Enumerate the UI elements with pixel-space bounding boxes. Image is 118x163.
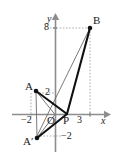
tick-marks: [53, 28, 90, 117]
y-tick-label-8: 8: [44, 22, 49, 32]
origin-label: O: [47, 115, 55, 126]
point-label-p: P: [63, 115, 69, 126]
point-a-dot: [34, 89, 39, 94]
x-axis-label: x: [101, 116, 105, 126]
point-b-dot: [88, 26, 93, 31]
point-label-b: B: [93, 15, 100, 26]
y-axis-arrowhead: [52, 13, 59, 20]
point-label-aprime: A′: [23, 136, 33, 147]
point-label-a: A: [25, 81, 33, 92]
y-tick-label-neg2: −2: [61, 131, 72, 141]
segment-p-b: [67, 28, 90, 114]
point-aprime-dot: [35, 136, 40, 141]
x-tick-label-3: 3: [77, 115, 82, 125]
y-tick-label-2: 2: [45, 87, 50, 97]
segment-a-aprime: [36, 91, 37, 138]
coordinate-figure: y x 8 2 −2 −2 3 O A A′ B P: [0, 0, 118, 163]
x-tick-label-neg2: −2: [21, 115, 32, 125]
